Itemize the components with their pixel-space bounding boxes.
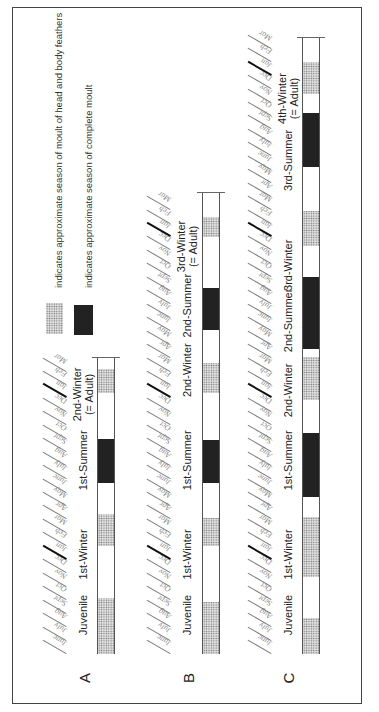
plumage-stage-label: 2nd-Winter(= Adult) (71, 368, 95, 422)
partial-moult-segment (303, 517, 319, 578)
timeline-bar-a (97, 358, 115, 654)
timeline-bar-b (202, 193, 220, 654)
plumage-stage-label: Juvenile (181, 595, 193, 635)
plumage-stage-label: 3rd-Winter (282, 240, 294, 291)
partial-moult-segment (203, 518, 219, 546)
legend-label-dotted: indicates approximate season of moult of… (53, 13, 64, 288)
partial-moult-segment (203, 364, 219, 394)
legend-label-dark: indicates approximate season of complete… (83, 85, 94, 288)
complete-moult-segment (98, 439, 114, 483)
legend-swatch-dotted (46, 303, 63, 334)
plumage-stage-label: 2nd-Winter (282, 363, 294, 417)
plumage-stage-label: Juvenile (77, 595, 89, 635)
complete-moult-segment (303, 433, 319, 496)
plumage-stage-label: 1st-Summer (282, 430, 294, 490)
plumage-stage-label: 4th-Winter(= Adult) (276, 73, 300, 124)
complete-moult-segment (203, 440, 219, 483)
bar-end-cap (92, 357, 120, 358)
partial-moult-segment (303, 618, 319, 654)
bar-end-cap (297, 37, 325, 38)
complete-moult-segment (303, 113, 319, 167)
row-letter-a: A (76, 673, 93, 683)
partial-moult-segment (303, 212, 319, 247)
plumage-stage-label: 2nd-Summer (181, 274, 193, 338)
plumage-stage-label: 3rd-Summer (282, 130, 294, 191)
legend-swatch-dark (74, 305, 93, 335)
row-letter-b: B (180, 673, 197, 683)
complete-moult-segment (303, 277, 319, 348)
plumage-stage-label: 1st-Winter (282, 529, 294, 579)
partial-moult-segment (203, 602, 219, 654)
partial-moult-segment (203, 217, 219, 237)
plumage-stage-label: 1st-Winter (77, 529, 89, 579)
partial-moult-segment (98, 598, 114, 654)
plumage-stage-label: 1st-Summer (77, 430, 89, 490)
plumage-stage-label: 1st-Summer (181, 430, 193, 490)
moult-diagram: indicates approximate season of moult of… (0, 0, 379, 712)
plumage-stage-label: 2nd-Summer (282, 289, 294, 353)
plumage-stage-label: 3rd-Winter(= Adult) (175, 221, 199, 272)
plumage-stage-label: Juvenile (282, 595, 294, 635)
partial-moult-segment (303, 62, 319, 94)
plumage-stage-label: 2nd-Winter (181, 343, 193, 397)
bar-end-cap (197, 192, 225, 193)
partial-moult-segment (98, 369, 114, 393)
partial-moult-segment (98, 514, 114, 546)
row-letter-c: C (280, 673, 297, 684)
complete-moult-segment (203, 288, 219, 330)
timeline-bar-c (302, 38, 320, 654)
partial-moult-segment (303, 357, 319, 400)
plumage-stage-label: 1st-Winter (181, 529, 193, 579)
